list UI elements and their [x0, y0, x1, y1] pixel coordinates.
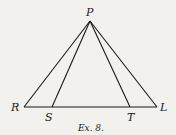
segment-PR — [24, 21, 90, 107]
triangle-diagram: P R S T L Ex. 8. — [0, 0, 176, 135]
figure-caption: Ex. 8. — [77, 123, 104, 133]
label-R: R — [10, 101, 19, 114]
label-S: S — [45, 111, 53, 124]
label-P: P — [85, 6, 94, 19]
segment-PS — [52, 21, 90, 107]
label-L: L — [159, 101, 167, 114]
figure-canvas: P R S T L Ex. 8. — [0, 0, 176, 135]
label-T: T — [127, 111, 136, 124]
